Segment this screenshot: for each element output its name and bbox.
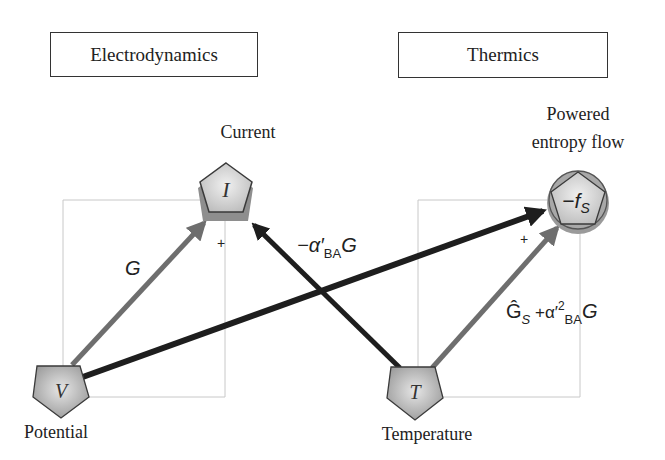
temperature-node: T	[387, 367, 443, 420]
alpha-suffix: G	[341, 234, 357, 256]
gs-mid: +α′	[530, 303, 558, 322]
edge-label-g: G	[125, 257, 141, 279]
plus-sign-entropy: +	[520, 231, 528, 247]
temperature-symbol: T	[409, 381, 422, 403]
onsager-graph: + + G −α′BAG ĜS +α′2BAG I −fS V T	[0, 0, 665, 460]
edge-v-to-i	[72, 223, 204, 365]
gs-sup: 2	[558, 299, 565, 313]
gs-suffix: G	[582, 300, 598, 322]
plus-sign-current: +	[217, 235, 225, 251]
potential-node: V	[33, 366, 89, 418]
entropy-node: −fS	[547, 171, 609, 234]
edge-label-gs: ĜS +α′2BAG	[506, 299, 598, 327]
gs-sub: S	[522, 312, 531, 327]
current-node: I	[198, 163, 253, 221]
alpha-prefix: −α′	[297, 234, 325, 256]
gs-sub2: BA	[565, 312, 583, 327]
entropy-symbol-sub: S	[580, 200, 590, 216]
alpha-sub: BA	[324, 246, 342, 261]
edge-t-to-s	[432, 228, 557, 368]
gs-hat: Ĝ	[506, 300, 522, 322]
edge-label-alpha: −α′BAG	[297, 234, 357, 261]
